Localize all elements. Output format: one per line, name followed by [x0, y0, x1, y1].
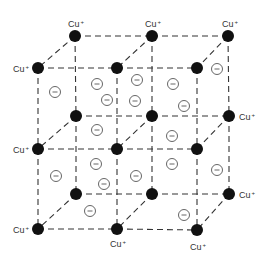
anion-icon: [212, 64, 223, 75]
cation-dot-icon: [32, 62, 44, 74]
anion-icon: [132, 75, 143, 86]
lattice-edge: [38, 36, 75, 68]
anion-icon: [85, 206, 96, 217]
cation-dot-icon: [69, 30, 81, 42]
cation-dot-icon: [32, 143, 44, 155]
cation-dot-icon: [223, 188, 235, 200]
cation-dot-icon: [70, 188, 82, 200]
cation-dot-icon: [222, 30, 234, 42]
cu-ion-label: Cu+: [222, 19, 239, 29]
cu-ion-label: Cu+: [13, 225, 30, 235]
cation-dot-icon: [191, 62, 203, 74]
lattice-edge: [75, 36, 76, 116]
anion-icon: [50, 87, 61, 98]
cu-ion-label: Cu+: [13, 64, 30, 74]
crystal-lattice-diagram: Cu+Cu+Cu+Cu+Cu+Cu+Cu+Cu+Cu+Cu+: [0, 0, 263, 255]
cation-dot-icon: [111, 62, 123, 74]
cation-dot-icon: [111, 143, 123, 155]
anion-icon: [92, 79, 103, 90]
cation-dot-icon: [146, 188, 158, 200]
lattice-edge: [38, 194, 76, 229]
cu-ion-label: Cu+: [68, 19, 85, 29]
lattice-edge: [197, 194, 229, 230]
cation-dot-icon: [191, 143, 203, 155]
cation-dot-icon: [70, 110, 82, 122]
lattice-edge: [117, 194, 152, 229]
cation-dot-icon: [146, 110, 158, 122]
anion-icon: [51, 171, 62, 182]
anion-icon: [92, 125, 103, 136]
cu-ion-label: Cu+: [145, 19, 162, 29]
anion-icon: [91, 159, 102, 170]
anion-icon: [131, 171, 142, 182]
lattice-edge: [117, 229, 197, 230]
lattice-edge: [117, 116, 152, 149]
lattice-edge: [228, 36, 229, 116]
anion-icon: [168, 79, 179, 90]
cu-ion-label: Cu+: [190, 242, 207, 252]
lattice-edge: [117, 36, 152, 68]
anion-icon: [212, 165, 223, 176]
anion-icon: [130, 96, 141, 107]
lattice-edge: [197, 116, 229, 149]
lattice-edge: [38, 116, 76, 149]
cu-ion-label: Cu+: [239, 190, 256, 200]
cu-ion-label: Cu+: [13, 145, 30, 155]
anion-icon: [99, 179, 110, 190]
anion-icon: [102, 95, 113, 106]
cation-dot-icon: [191, 224, 203, 236]
cation-dot-icon: [146, 30, 158, 42]
anion-icon: [167, 159, 178, 170]
anion-icon: [179, 101, 190, 112]
cation-dot-icon: [223, 110, 235, 122]
lattice-edge: [197, 36, 228, 68]
anion-icon: [167, 131, 178, 142]
cation-dot-icon: [32, 223, 44, 235]
lattice-canvas: Cu+Cu+Cu+Cu+Cu+Cu+Cu+Cu+Cu+Cu+: [0, 0, 263, 255]
cation-dot-icon: [111, 223, 123, 235]
label-layer: Cu+Cu+Cu+Cu+Cu+Cu+Cu+Cu+Cu+Cu+: [13, 19, 256, 252]
cu-ion-label: Cu+: [239, 112, 256, 122]
anion-icon: [179, 210, 190, 221]
cu-ion-label: Cu+: [110, 239, 127, 249]
